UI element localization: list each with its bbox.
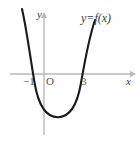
graph-figure: y x y=f(x) −1 O 3	[0, 0, 140, 141]
x-axis-label: x	[126, 76, 131, 87]
plot-area	[0, 0, 140, 141]
x-tick-label-three: 3	[81, 76, 87, 87]
x-tick-label-negative-one: −1	[23, 76, 35, 87]
origin-label: O	[46, 76, 54, 87]
parabola-curve	[22, 9, 95, 117]
y-axis-label: y	[37, 9, 42, 20]
curve-function-label: y=f(x)	[81, 12, 111, 24]
